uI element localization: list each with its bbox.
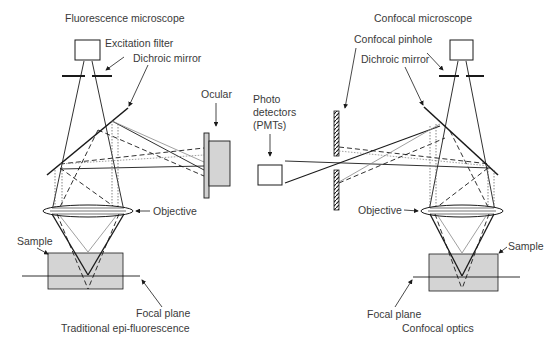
ocular-body: [209, 141, 230, 186]
confocal-pinhole-lower: [334, 170, 339, 210]
ocular-plate: [204, 133, 209, 198]
confocal-pinhole-label: Confocal pinhole: [354, 33, 432, 45]
dichroic-mirror: [424, 107, 498, 175]
objective-label: Objective: [153, 205, 197, 217]
sample-label: Sample: [508, 240, 544, 252]
confocal-microscope: Confocal microscope: [253, 12, 544, 334]
epi-fluorescence-caption: Traditional epi-fluorescence: [61, 322, 190, 334]
photo-detectors-label-line3: (PMTs): [253, 119, 286, 131]
dichroic-mirror-label: Dichroic mirror: [133, 52, 202, 64]
microscope-diagram: Fluorescence microscope: [0, 0, 555, 349]
objective-label: Objective: [358, 204, 402, 216]
confocal-title: Confocal microscope: [374, 12, 472, 24]
fluorescence-title: Fluorescence microscope: [65, 12, 185, 24]
fluorescence-microscope: Fluorescence microscope: [17, 12, 232, 334]
confocal-pinhole-upper: [334, 111, 339, 156]
light-source-box: [450, 40, 473, 60]
dichroic-mirror: [47, 108, 128, 175]
light-source-box: [75, 40, 100, 60]
photo-detectors-label-line1: Photo: [253, 93, 281, 105]
focal-plane-label: Focal plane: [136, 307, 190, 319]
focal-plane-label: Focal plane: [367, 308, 421, 320]
ocular-label: Ocular: [201, 88, 232, 100]
dichroic-mirror-label: Dichroic mirror: [361, 53, 430, 65]
excitation-filter-label: Excitation filter: [105, 37, 174, 49]
sample-label: Sample: [17, 235, 53, 247]
confocal-optics-caption: Confocal optics: [402, 322, 474, 334]
photo-detectors-label-line2: detectors: [253, 106, 296, 118]
photo-detector-box: [258, 165, 282, 185]
